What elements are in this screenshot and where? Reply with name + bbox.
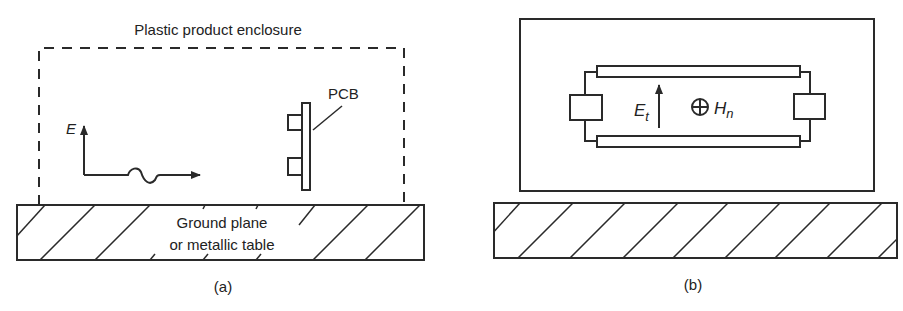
et-arrow: Et (634, 85, 659, 128)
pcb: PCB (288, 85, 359, 190)
caption-a: (a) (214, 278, 232, 295)
ground-plane-a: Ground plane or metallic table (0, 205, 424, 260)
enclosure-label: Plastic product enclosure (134, 21, 302, 38)
component-right (794, 94, 825, 119)
ground-label-line1: Ground plane (177, 214, 268, 231)
pcb-component-bottom (288, 158, 302, 175)
pcb-board (302, 103, 310, 190)
trace-top (597, 66, 800, 77)
pcb-component-top (288, 115, 302, 130)
diagram-canvas: Plastic product enclosure Ground plane o… (0, 0, 903, 311)
e-field-arrow: E (66, 120, 84, 175)
e-field-label: E (66, 120, 77, 137)
ground-label-line2: or metallic table (169, 236, 274, 253)
panel-b: Et Hn (b) (470, 19, 900, 293)
hn-into-page: Hn (692, 99, 734, 121)
et-label: Et (634, 101, 650, 124)
hn-label: Hn (714, 99, 734, 121)
panel-a: Plastic product enclosure Ground plane o… (0, 21, 424, 295)
ground-plane-b (470, 203, 900, 258)
trace-bottom (597, 136, 800, 147)
component-left (570, 95, 602, 120)
pcb-leader-line (313, 106, 342, 130)
plastic-enclosure-outline (39, 48, 404, 205)
pcb-label: PCB (328, 85, 359, 102)
caption-b: (b) (684, 276, 702, 293)
propagation-arrow (84, 168, 200, 182)
